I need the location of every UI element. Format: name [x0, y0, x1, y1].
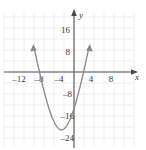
y-axis-arrowhead	[71, 9, 77, 16]
x-tick-label-4: 4	[89, 74, 94, 84]
x-tick-label-8: 8	[109, 74, 114, 84]
y-axis-label: y	[78, 10, 83, 20]
parabola-chart: y x –12 –8 –4 4 8 16 8 –8 –16 –24	[0, 0, 146, 150]
y-tick-label--8: –8	[62, 89, 73, 99]
y-tick-label-8: 8	[66, 47, 71, 57]
x-tick-label--4: –4	[54, 74, 65, 84]
y-tick-label--24: –24	[60, 133, 75, 143]
x-tick-label--12: –12	[11, 74, 26, 84]
x-axis-label: x	[134, 72, 139, 82]
y-tick-label-16: 16	[61, 25, 71, 35]
parabola-left-arrowhead	[30, 44, 37, 52]
parabola-right-arrowhead	[86, 44, 93, 52]
figure-container: y x –12 –8 –4 4 8 16 8 –8 –16 –24	[0, 0, 146, 150]
